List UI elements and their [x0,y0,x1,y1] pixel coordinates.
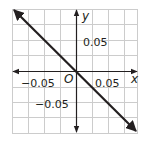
y-axis-label: y [81,9,90,23]
y-tick-label-neg: −0.05 [35,98,69,111]
x-tick-label-pos: 0.05 [95,77,120,90]
x-axis-label: x [130,72,139,86]
coordinate-graph: y x O 0.05 −0.05 −0.05 0.05 [0,0,147,143]
y-tick-label-pos: 0.05 [83,36,108,49]
plotted-line [14,10,136,131]
origin-label: O [64,72,73,86]
x-tick-label-neg: −0.05 [21,77,55,90]
